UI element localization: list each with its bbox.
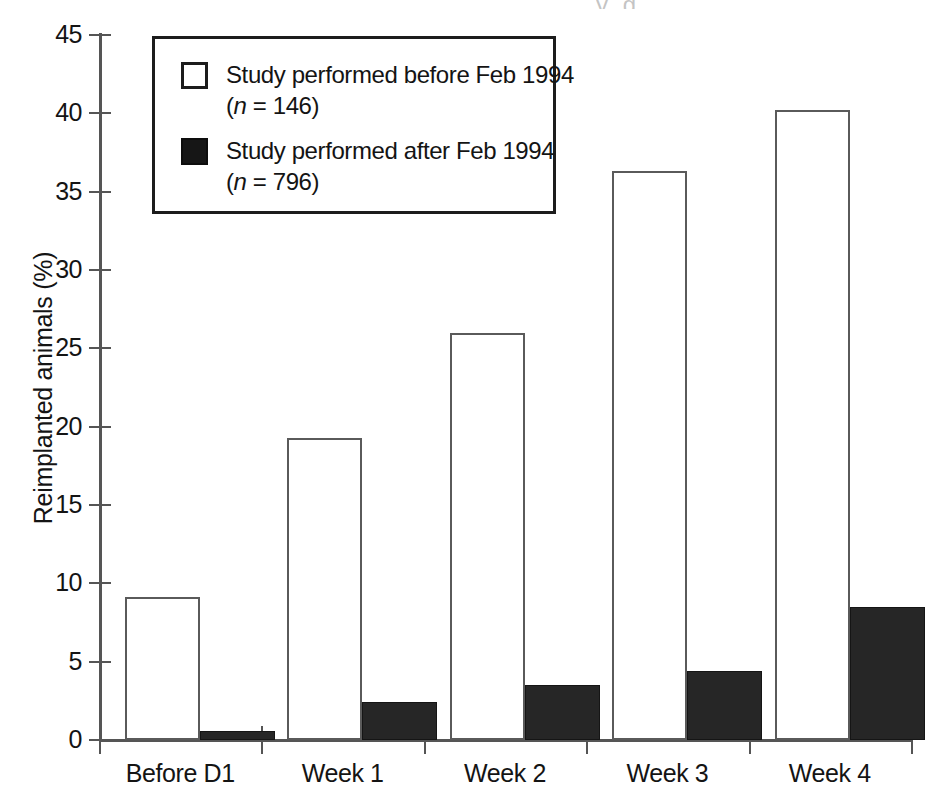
y-axis-tick-label: 30: [22, 257, 82, 282]
bar-before-week-2: [450, 333, 525, 740]
legend: Study performed before Feb 1994 (n = 146…: [152, 36, 556, 214]
y-axis-tick: [89, 269, 111, 271]
y-axis-tick-label-text: 10: [28, 570, 82, 595]
y-axis-tick-label-text: 5: [28, 649, 82, 674]
legend-n-value: = 796): [247, 168, 320, 195]
bar-after-week-2: [525, 685, 600, 740]
y-axis-tick: [89, 112, 111, 114]
y-axis-tick-label: 45: [22, 22, 82, 47]
y-axis-tick: [89, 347, 111, 349]
legend-entry-before-label: Study performed before Feb 1994: [226, 61, 574, 88]
y-axis-tick-label-text: 25: [28, 335, 82, 360]
legend-entry-after: Study performed after Feb 1994 (n = 796): [181, 135, 541, 197]
y-axis-tick: [89, 191, 111, 193]
legend-n-prefix: (: [226, 168, 234, 195]
y-axis-tick-label: 35: [22, 179, 82, 204]
y-axis-tick-label-text: 45: [28, 22, 82, 47]
legend-n-value: = 146): [247, 92, 320, 119]
y-axis-tick: [89, 504, 111, 506]
y-axis-tick: [89, 582, 111, 584]
open-square-swatch: [181, 62, 208, 89]
y-axis-tick-label-text: 35: [28, 179, 82, 204]
legend-entry-before-text: Study performed before Feb 1994 (n = 146…: [226, 59, 574, 121]
y-axis-tick-label-text: 15: [28, 492, 82, 517]
legend-entry-before: Study performed before Feb 1994 (n = 146…: [181, 59, 541, 121]
y-axis-tick-label: 10: [22, 570, 82, 595]
y-axis-tick-label: 15: [22, 492, 82, 517]
legend-entry-after-n: (n = 796): [226, 168, 319, 195]
y-axis-tick-label-text: 30: [28, 257, 82, 282]
bar-after-week-1: [362, 702, 437, 740]
bar-before-week-4: [775, 110, 850, 740]
bar-before-week-1: [287, 438, 362, 740]
legend-n-prefix: (: [226, 92, 234, 119]
bar-before-week-3: [612, 171, 687, 740]
y-axis-tick-label-text: 40: [28, 100, 82, 125]
y-axis-line: [99, 33, 102, 742]
legend-n-symbol: n: [234, 92, 247, 119]
y-axis-tick-label: 20: [22, 414, 82, 439]
y-axis-tick-label-text: 0: [28, 727, 82, 752]
y-axis-tick-label-text: 20: [28, 414, 82, 439]
legend-entry-after-text: Study performed after Feb 1994 (n = 796): [226, 135, 554, 197]
filled-square-swatch: [181, 138, 208, 165]
x-axis-category-label: Week 4: [720, 760, 929, 786]
y-axis-tick-label: 0: [22, 727, 82, 752]
y-axis-tick-label: 5: [22, 649, 82, 674]
legend-n-symbol: n: [234, 168, 247, 195]
bar-after-week-4: [850, 607, 925, 740]
bar-after-before-d1: [200, 731, 275, 740]
x-axis-tick: [99, 726, 101, 754]
y-axis-tick-label: 25: [22, 335, 82, 360]
y-axis-tick: [89, 661, 111, 663]
y-axis-title: Reimplanted animals (%): [30, 158, 56, 618]
legend-entry-after-label: Study performed after Feb 1994: [226, 137, 554, 164]
legend-entry-before-n: (n = 146): [226, 92, 319, 119]
bar-after-week-3: [687, 671, 762, 740]
bar-before-before-d1: [125, 597, 200, 740]
y-axis-tick-label: 40: [22, 100, 82, 125]
y-axis-tick: [89, 34, 111, 36]
y-axis-tick: [89, 426, 111, 428]
scan-artifact-text: y g: [596, 0, 706, 9]
